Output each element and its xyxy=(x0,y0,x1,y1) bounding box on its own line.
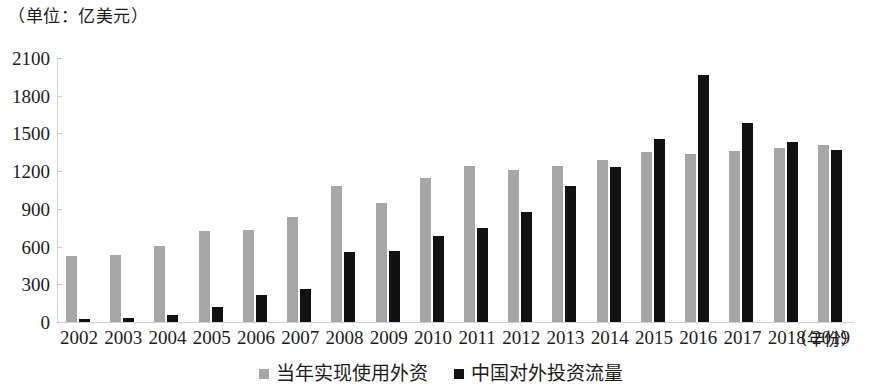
bar xyxy=(433,236,444,322)
bar xyxy=(420,178,431,322)
x-axis-tick-label: 2015 xyxy=(635,325,673,351)
legend-swatch-icon xyxy=(454,369,464,379)
y-axis-tick xyxy=(57,209,62,210)
bar xyxy=(818,145,829,323)
bar xyxy=(729,151,740,322)
bar xyxy=(597,160,608,322)
x-axis-tick-label: 2016 xyxy=(679,325,717,351)
y-axis-tick xyxy=(57,171,62,172)
x-axis-line xyxy=(57,322,854,323)
bar-group xyxy=(234,58,278,322)
bar xyxy=(641,152,652,322)
bar xyxy=(389,251,400,322)
y-axis-tick-label: 600 xyxy=(22,237,51,256)
bar-group xyxy=(278,58,322,322)
y-axis-tick xyxy=(57,58,62,59)
bar-group xyxy=(588,58,632,322)
chart-page: （单位：亿美元） 03006009001200150018002100 2002… xyxy=(0,0,881,392)
bar-group xyxy=(499,58,543,322)
bar xyxy=(199,231,210,322)
x-axis-tick-label: 2013 xyxy=(547,325,585,351)
bar-group xyxy=(411,58,455,322)
x-axis-labels: 2002200320042005200620072008200920102011… xyxy=(57,325,854,353)
legend-label: 当年实现使用外资 xyxy=(276,362,428,386)
x-axis-tick-label: 2017 xyxy=(723,325,761,351)
x-axis-tick-label: 2014 xyxy=(591,325,629,351)
y-axis-labels: 03006009001200150018002100 xyxy=(0,0,50,392)
y-axis-tick xyxy=(57,96,62,97)
bar xyxy=(698,75,709,322)
legend-item[interactable]: 中国对外投资流量 xyxy=(454,362,623,386)
bar xyxy=(742,123,753,322)
bar-group xyxy=(190,58,234,322)
y-axis-tick-label: 2100 xyxy=(12,49,50,68)
bar xyxy=(110,255,121,322)
bar xyxy=(565,186,576,322)
bar xyxy=(552,166,563,322)
bar-group xyxy=(455,58,499,322)
legend-label: 中国对外投资流量 xyxy=(471,362,623,386)
bar-group xyxy=(322,58,366,322)
bar xyxy=(685,154,696,322)
bar xyxy=(154,246,165,322)
bar-group xyxy=(809,58,853,322)
bar xyxy=(477,228,488,322)
plot-area xyxy=(57,58,853,322)
bar-group xyxy=(145,58,189,322)
bar xyxy=(212,307,223,322)
bar-group xyxy=(101,58,145,322)
bar xyxy=(508,170,519,322)
bar xyxy=(654,139,665,322)
chart-legend: 当年实现使用外资中国对外投资流量 xyxy=(0,362,881,386)
legend-item[interactable]: 当年实现使用外资 xyxy=(259,362,428,386)
y-axis-tick-label: 1500 xyxy=(12,124,50,143)
x-axis-tick-label: 2002 xyxy=(60,325,98,351)
bar xyxy=(376,203,387,322)
y-axis-tick xyxy=(57,322,62,323)
bar-group xyxy=(676,58,720,322)
x-axis-tick-label: 2012 xyxy=(502,325,540,351)
x-axis-title: （年份） xyxy=(790,327,858,353)
y-axis-tick-label: 1200 xyxy=(12,162,50,181)
bar xyxy=(331,186,342,322)
bar-group xyxy=(632,58,676,322)
bar xyxy=(79,319,90,322)
x-axis-tick-label: 2010 xyxy=(414,325,452,351)
y-axis-tick xyxy=(57,133,62,134)
y-axis-tick xyxy=(57,284,62,285)
x-axis-tick-label: 2005 xyxy=(193,325,231,351)
x-axis-tick-label: 2009 xyxy=(370,325,408,351)
bar-group xyxy=(720,58,764,322)
bar xyxy=(243,230,254,322)
bar xyxy=(287,217,298,322)
y-axis-tick-label: 1800 xyxy=(12,86,50,105)
bar xyxy=(344,252,355,322)
bar xyxy=(521,212,532,322)
x-axis-tick-label: 2006 xyxy=(237,325,275,351)
bar-group xyxy=(765,58,809,322)
y-axis-tick xyxy=(57,247,62,248)
bar-group xyxy=(543,58,587,322)
bar xyxy=(831,150,842,322)
bar-group xyxy=(367,58,411,322)
bar xyxy=(787,142,798,322)
bar xyxy=(610,167,621,322)
bar-group xyxy=(57,58,101,322)
legend-swatch-icon xyxy=(259,369,269,379)
x-axis-tick-label: 2008 xyxy=(325,325,363,351)
bar xyxy=(774,148,785,322)
bar xyxy=(300,289,311,322)
bar xyxy=(256,295,267,322)
x-axis-tick-label: 2011 xyxy=(458,325,495,351)
y-axis-tick-label: 300 xyxy=(22,275,51,294)
y-axis-tick-label: 900 xyxy=(22,199,51,218)
bar xyxy=(464,166,475,322)
x-axis-tick-label: 2007 xyxy=(281,325,319,351)
bar xyxy=(66,256,77,322)
x-axis-tick-label: 2003 xyxy=(104,325,142,351)
x-axis-tick-label: 2004 xyxy=(149,325,187,351)
y-axis-tick-label: 0 xyxy=(41,313,51,332)
bar xyxy=(167,315,178,322)
bar xyxy=(123,318,134,322)
